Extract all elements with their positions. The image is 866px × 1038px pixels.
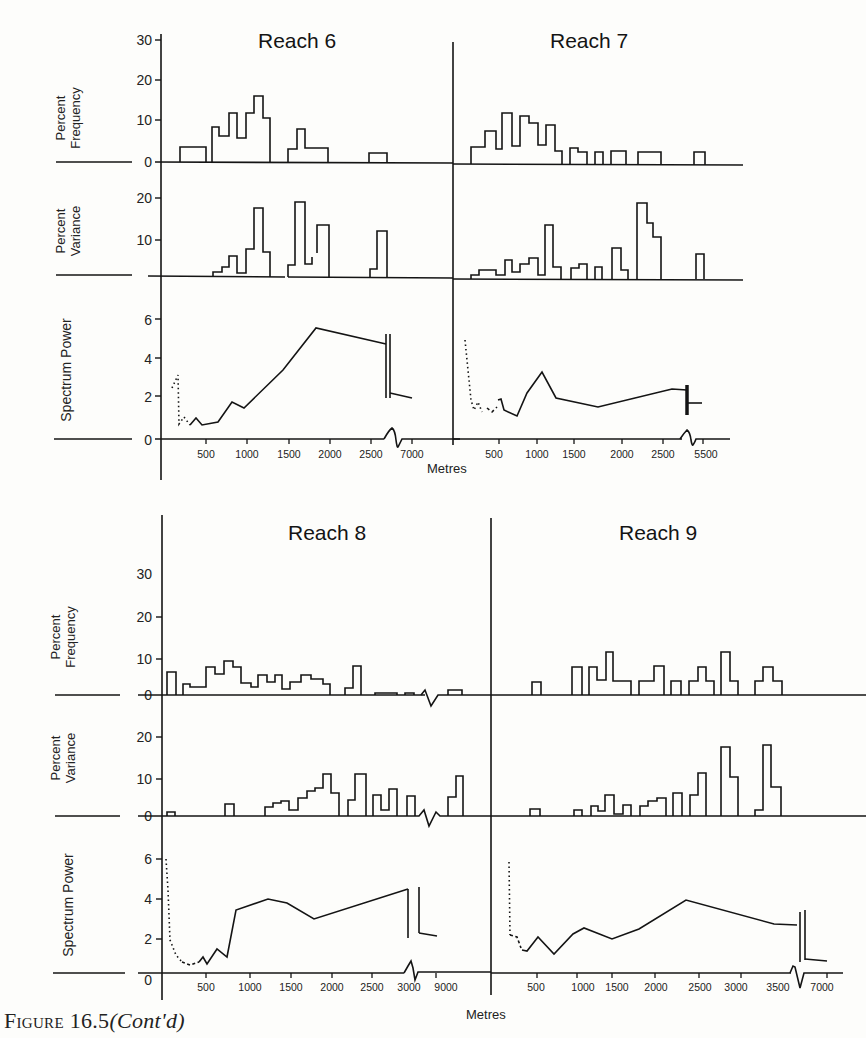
svg-text:6: 6 bbox=[144, 851, 152, 867]
svg-text:7000: 7000 bbox=[810, 981, 834, 993]
var-baseline-r8-r9 bbox=[138, 810, 866, 826]
svg-text:30: 30 bbox=[136, 566, 152, 582]
caption-suffix: (Cont'd) bbox=[109, 1008, 185, 1033]
x-ticklabels-r6: 500 1000 1500 2000 2500 7000 bbox=[197, 448, 424, 460]
reach-9-variance-histogram bbox=[530, 745, 781, 816]
reach-7-spectrum-dashed bbox=[487, 407, 497, 412]
axis-break-r8-spectrum bbox=[404, 961, 491, 980]
freq-ticks-bottom: 30 20 10 0 bbox=[136, 566, 152, 703]
reach-9-title: Reach 9 bbox=[619, 521, 697, 544]
freq-ylabel-bottom: Percent Frequency bbox=[48, 606, 78, 668]
svg-text:2500: 2500 bbox=[359, 448, 383, 460]
x-ticklabels-r8: 500 1000 1500 2000 2500 3000 9000 bbox=[197, 981, 458, 993]
svg-text:500: 500 bbox=[197, 981, 215, 993]
axis-break-r6 bbox=[384, 428, 460, 447]
svg-text:0: 0 bbox=[144, 432, 152, 448]
reach-7-variance-histogram bbox=[471, 203, 704, 279]
reach-8-frequency-histogram bbox=[167, 661, 462, 695]
svg-text:Variance: Variance bbox=[63, 733, 78, 783]
reach-6-spectrum-tail bbox=[390, 393, 412, 398]
reach-8-spectrum-dashed bbox=[182, 962, 199, 965]
svg-text:Percent: Percent bbox=[48, 735, 63, 780]
svg-text:Frequency: Frequency bbox=[63, 606, 78, 668]
freq-baseline-r7 bbox=[453, 164, 743, 165]
reach-7-title: Reach 7 bbox=[550, 29, 628, 52]
reach-9-spectrum-line bbox=[522, 900, 797, 954]
var-ticks-top: 20 10 bbox=[136, 190, 152, 248]
caption-prefix: Figure bbox=[4, 1008, 64, 1033]
svg-text:2000: 2000 bbox=[318, 448, 342, 460]
svg-text:4: 4 bbox=[144, 351, 152, 367]
reach-8-spectrum-line bbox=[199, 889, 408, 964]
reach-8-variance-histogram bbox=[167, 774, 463, 816]
svg-text:Percent: Percent bbox=[53, 208, 68, 253]
var-baseline-r6-a bbox=[148, 276, 285, 277]
svg-text:1000: 1000 bbox=[525, 448, 549, 460]
x-axis-label-top: Metres bbox=[427, 461, 467, 476]
reach-7-spectrum-dotted bbox=[465, 340, 482, 412]
svg-text:5500: 5500 bbox=[694, 448, 718, 460]
svg-text:Frequency: Frequency bbox=[68, 87, 83, 149]
reach-9-frequency-histogram bbox=[532, 652, 782, 695]
reach-6-variance-histogram bbox=[213, 202, 387, 277]
svg-text:Variance: Variance bbox=[68, 206, 83, 256]
svg-text:2500: 2500 bbox=[360, 981, 384, 993]
svg-text:2000: 2000 bbox=[644, 981, 668, 993]
freq-baseline-r6 bbox=[155, 162, 453, 163]
var-baseline-r6-b bbox=[288, 277, 453, 278]
reach-9-spectrum-dashed bbox=[510, 935, 521, 948]
freq-ylabel-top: Percent Frequency bbox=[53, 87, 83, 149]
svg-text:2: 2 bbox=[144, 389, 152, 405]
svg-text:2000: 2000 bbox=[320, 981, 344, 993]
reach-9-spectrum-dotted bbox=[509, 862, 510, 935]
reach-8-title: Reach 8 bbox=[288, 521, 366, 544]
var-ylabel-bottom: Percent Variance bbox=[48, 733, 78, 783]
svg-text:10: 10 bbox=[136, 232, 152, 248]
svg-text:2500: 2500 bbox=[651, 448, 675, 460]
svg-text:3000: 3000 bbox=[397, 981, 421, 993]
x-ticklabels-r9: 500 1000 1500 2000 2500 3000 3500 7000 bbox=[527, 981, 834, 993]
axis-break-r7 bbox=[680, 430, 730, 445]
svg-text:3500: 3500 bbox=[766, 981, 790, 993]
reach-8-spectrum-dotted bbox=[166, 859, 182, 962]
svg-text:20: 20 bbox=[136, 72, 152, 88]
reach-6-title: Reach 6 bbox=[258, 29, 336, 52]
reach-9-spectrum-tail bbox=[805, 959, 827, 961]
var-baseline-r7 bbox=[453, 279, 743, 280]
svg-text:Percent: Percent bbox=[53, 95, 68, 140]
x-axis-label-bottom: Metres bbox=[466, 1007, 506, 1022]
svg-text:1500: 1500 bbox=[605, 981, 629, 993]
svg-text:500: 500 bbox=[485, 448, 503, 460]
svg-text:0: 0 bbox=[144, 154, 152, 170]
svg-text:20: 20 bbox=[136, 609, 152, 625]
var-ylabel-top: Percent Variance bbox=[53, 206, 83, 256]
figure-16-5: Reach 6 Reach 7 Percent Frequency Percen… bbox=[0, 0, 866, 1038]
svg-text:20: 20 bbox=[136, 729, 152, 745]
axis-break-r8-freq bbox=[421, 690, 866, 706]
figure-caption: Figure 16.5(Cont'd) bbox=[4, 1008, 185, 1034]
reach-6-spectrum-dotted bbox=[172, 375, 190, 425]
svg-text:2: 2 bbox=[144, 931, 152, 947]
svg-text:30: 30 bbox=[136, 32, 152, 48]
var-ticks-bottom: 20 10 0 bbox=[136, 729, 152, 824]
svg-text:10: 10 bbox=[136, 771, 152, 787]
svg-text:20: 20 bbox=[136, 190, 152, 206]
reach-8-spectrum-tail bbox=[419, 933, 437, 936]
top-panel-group: Reach 6 Reach 7 Percent Frequency Percen… bbox=[53, 29, 743, 480]
svg-text:3000: 3000 bbox=[724, 981, 748, 993]
svg-text:4: 4 bbox=[144, 891, 152, 907]
svg-text:500: 500 bbox=[527, 981, 545, 993]
spectrum-ylabel-bottom: Spectrum Power bbox=[60, 853, 76, 957]
svg-text:1000: 1000 bbox=[238, 981, 262, 993]
reach-7-spectrum-line bbox=[498, 372, 687, 416]
bottom-panel-group: Reach 8 Reach 9 Percent Frequency Percen… bbox=[48, 515, 866, 1022]
x-ticklabels-r7: 500 1000 1500 2000 2500 5500 bbox=[485, 448, 718, 460]
svg-text:Percent: Percent bbox=[48, 614, 63, 659]
reach-6-frequency-histogram bbox=[180, 96, 387, 162]
svg-text:1500: 1500 bbox=[279, 981, 303, 993]
svg-text:0: 0 bbox=[144, 972, 152, 988]
svg-text:6: 6 bbox=[144, 312, 152, 328]
svg-text:1000: 1000 bbox=[235, 448, 259, 460]
svg-text:2000: 2000 bbox=[610, 448, 634, 460]
svg-text:7000: 7000 bbox=[400, 448, 424, 460]
